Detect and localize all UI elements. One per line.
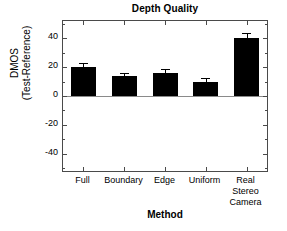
plot-area bbox=[63, 21, 267, 171]
x-axis-tick-label: Uniform bbox=[184, 175, 225, 186]
y-axis-major-tick bbox=[263, 125, 267, 126]
y-axis-minor-tick bbox=[63, 110, 65, 111]
x-axis-tick-label-line: Boundary bbox=[103, 175, 144, 186]
x-axis-tick-label: Edge bbox=[144, 175, 185, 186]
x-axis-tick-label-line: Full bbox=[62, 175, 103, 186]
x-axis-tick-label-line: Camera bbox=[225, 197, 266, 208]
y-axis-tick-label: 20 bbox=[48, 61, 58, 70]
y-axis-tick-label: 0 bbox=[53, 90, 58, 99]
x-axis-major-tick bbox=[206, 21, 207, 25]
y-axis-title-line-2: (Test-Reference) bbox=[21, 0, 33, 133]
error-bar-cap bbox=[120, 73, 129, 74]
plot-frame bbox=[62, 20, 268, 172]
x-axis-title: Method bbox=[62, 209, 268, 220]
y-axis-minor-tick bbox=[265, 139, 267, 140]
x-axis-tick-label-line: Stereo bbox=[225, 186, 266, 197]
y-axis-minor-tick bbox=[63, 168, 65, 169]
y-axis-major-tick bbox=[263, 96, 267, 97]
y-axis-minor-tick bbox=[63, 139, 65, 140]
y-axis-major-tick bbox=[263, 38, 267, 39]
x-axis-major-tick bbox=[124, 21, 125, 25]
error-bar-cap bbox=[79, 63, 88, 64]
y-axis-title: DMOS (Test-Reference) bbox=[9, 0, 39, 133]
x-axis-tick-label: Full bbox=[62, 175, 103, 186]
x-axis-tick-labels: FullBoundaryEdgeUniformRealStereoCamera bbox=[62, 175, 268, 211]
x-axis-tick-label: Boundary bbox=[103, 175, 144, 186]
x-axis-tick-label-line: Real bbox=[225, 175, 266, 186]
y-axis-minor-tick bbox=[265, 168, 267, 169]
bar bbox=[234, 38, 259, 96]
y-axis-minor-tick bbox=[265, 110, 267, 111]
y-axis-minor-tick bbox=[63, 82, 65, 83]
y-axis-minor-tick bbox=[265, 24, 267, 25]
y-axis-major-tick bbox=[63, 125, 67, 126]
x-axis-major-tick bbox=[83, 21, 84, 25]
x-axis-tick-label: RealStereoCamera bbox=[225, 175, 266, 208]
x-axis-major-tick bbox=[83, 167, 84, 171]
y-axis-minor-tick bbox=[63, 24, 65, 25]
y-axis-tick-label: 40 bbox=[48, 32, 58, 41]
bar bbox=[153, 73, 178, 96]
bar bbox=[112, 76, 137, 96]
y-axis-minor-tick bbox=[265, 82, 267, 83]
chart-figure: Depth Quality DMOS (Test-Reference) 4020… bbox=[0, 0, 287, 231]
y-axis-minor-tick bbox=[265, 53, 267, 54]
y-axis-major-tick bbox=[63, 154, 67, 155]
bar bbox=[193, 82, 218, 96]
y-axis-tick-label: -40 bbox=[45, 148, 58, 157]
y-axis-major-tick bbox=[263, 154, 267, 155]
x-axis-tick-label-line: Uniform bbox=[184, 175, 225, 186]
y-axis-major-tick bbox=[63, 38, 67, 39]
x-axis-major-tick bbox=[124, 167, 125, 171]
x-axis-major-tick bbox=[165, 167, 166, 171]
x-axis-major-tick bbox=[206, 167, 207, 171]
y-axis-major-tick bbox=[63, 67, 67, 68]
y-axis-tick-label: -20 bbox=[45, 119, 58, 128]
bar bbox=[71, 67, 96, 96]
y-axis-major-tick bbox=[263, 67, 267, 68]
error-bar-cap bbox=[242, 33, 251, 34]
y-axis-tick-labels: 40200-20-40 bbox=[36, 20, 58, 172]
x-axis-major-tick bbox=[247, 167, 248, 171]
error-bar-cap bbox=[161, 69, 170, 70]
y-axis-title-line-1: DMOS bbox=[9, 0, 21, 133]
error-bar-cap bbox=[201, 78, 210, 79]
zero-baseline bbox=[63, 96, 267, 97]
x-axis-major-tick bbox=[165, 21, 166, 25]
x-axis-major-tick bbox=[247, 21, 248, 25]
y-axis-minor-tick bbox=[63, 53, 65, 54]
y-axis-major-tick bbox=[63, 96, 67, 97]
chart-title: Depth Quality bbox=[62, 3, 268, 14]
x-axis-tick-label-line: Edge bbox=[144, 175, 185, 186]
